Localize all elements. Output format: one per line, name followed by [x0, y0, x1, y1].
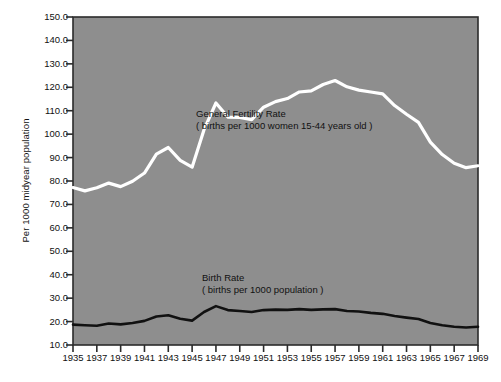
annotation-birth-rate: Birth Rate ( births per 1000 population …: [202, 272, 323, 296]
plot-area: [0, 0, 501, 382]
annotation-gfr-line1: General Fertility Rate: [196, 108, 372, 120]
annotation-br-line1: Birth Rate: [202, 272, 323, 284]
annotation-general-fertility-rate: General Fertility Rate ( births per 1000…: [196, 108, 372, 132]
chart-figure: 10.020.030.040.050.060.070.080.090.0100.…: [0, 0, 501, 382]
annotation-br-line2: ( births per 1000 population ): [202, 284, 323, 296]
annotation-gfr-line2: ( births per 1000 women 15-44 years old …: [196, 120, 372, 132]
